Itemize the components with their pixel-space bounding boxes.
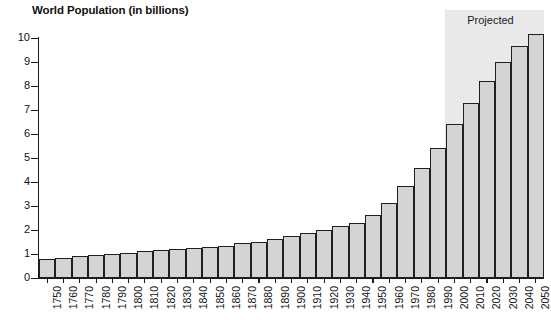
x-axis-label-1900: 1900 xyxy=(296,286,307,309)
bar-1990 xyxy=(430,148,446,278)
x-axis-label-1800: 1800 xyxy=(133,286,144,309)
x-axis-tick-1960 xyxy=(389,278,390,283)
x-axis-tick-2000 xyxy=(454,278,455,283)
bar-1830 xyxy=(169,249,185,278)
x-axis-label-1750: 1750 xyxy=(52,286,63,309)
bar-2030 xyxy=(495,62,511,278)
x-axis-label-1830: 1830 xyxy=(182,286,193,309)
x-axis-tick-1970 xyxy=(405,278,406,283)
bar-2020 xyxy=(479,81,495,278)
x-axis-tick-1950 xyxy=(372,278,373,283)
x-axis-tick-1810 xyxy=(144,278,145,283)
bar-1850 xyxy=(202,247,218,278)
x-axis-label-2010: 2010 xyxy=(475,286,486,309)
x-axis-label-1780: 1780 xyxy=(101,286,112,309)
bar-1920 xyxy=(316,230,332,278)
x-axis-tick-1900 xyxy=(291,278,292,283)
bar-2010 xyxy=(463,103,479,278)
bar-1940 xyxy=(349,223,365,278)
bar-1880 xyxy=(251,242,267,278)
bar-1970 xyxy=(397,186,413,278)
x-axis-tick-1820 xyxy=(161,278,162,283)
x-axis-tick-1750 xyxy=(47,278,48,283)
x-axis-tick-2050 xyxy=(535,278,536,283)
x-axis-label-2000: 2000 xyxy=(459,286,470,309)
x-axis-label-1770: 1770 xyxy=(84,286,95,309)
x-axis-label-2050: 2050 xyxy=(540,286,551,309)
x-axis-tick-1760 xyxy=(63,278,64,283)
x-axis-label-2040: 2040 xyxy=(524,286,535,309)
x-axis-tick-1840 xyxy=(193,278,194,283)
x-axis-label-1980: 1980 xyxy=(426,286,437,309)
bar-1960 xyxy=(381,203,397,278)
bar-1770 xyxy=(72,256,88,278)
x-axis-label-1850: 1850 xyxy=(215,286,226,309)
x-axis-label-1880: 1880 xyxy=(263,286,274,309)
x-axis-label-1890: 1890 xyxy=(280,286,291,309)
bar-1930 xyxy=(332,226,348,278)
bar-1760 xyxy=(55,258,71,278)
x-axis-label-2030: 2030 xyxy=(508,286,519,309)
bar-1800 xyxy=(120,253,136,278)
x-axis-tick-1800 xyxy=(128,278,129,283)
x-axis-label-1760: 1760 xyxy=(68,286,79,309)
x-axis-tick-1850 xyxy=(210,278,211,283)
x-axis-tick-1910 xyxy=(307,278,308,283)
bar-2050 xyxy=(528,34,544,278)
bar-2000 xyxy=(446,124,462,278)
x-axis-label-1930: 1930 xyxy=(345,286,356,309)
x-axis-tick-1940 xyxy=(356,278,357,283)
x-axis-label-1810: 1810 xyxy=(149,286,160,309)
x-axis-tick-1930 xyxy=(340,278,341,283)
x-axis-tick-2010 xyxy=(470,278,471,283)
x-axis-tick-1890 xyxy=(275,278,276,283)
x-axis-tick-1880 xyxy=(258,278,259,283)
x-axis-tick-2020 xyxy=(486,278,487,283)
x-axis-tick-1920 xyxy=(324,278,325,283)
x-axis-tick-1830 xyxy=(177,278,178,283)
x-axis-label-1860: 1860 xyxy=(231,286,242,309)
x-axis-label-1940: 1940 xyxy=(361,286,372,309)
x-axis-tick-1790 xyxy=(112,278,113,283)
bar-1910 xyxy=(300,233,316,278)
x-axis-label-1870: 1870 xyxy=(247,286,258,309)
x-axis-tick-1860 xyxy=(226,278,227,283)
bar-1750 xyxy=(39,259,55,278)
bar-1980 xyxy=(414,168,430,278)
x-axis-label-1990: 1990 xyxy=(443,286,454,309)
bar-1810 xyxy=(137,251,153,278)
x-axis-label-1790: 1790 xyxy=(117,286,128,309)
x-axis-tick-1870 xyxy=(242,278,243,283)
world-population-bar-chart: Projected World Population (in billions)… xyxy=(0,0,551,326)
x-axis-tick-1770 xyxy=(79,278,80,283)
x-axis-tick-2030 xyxy=(503,278,504,283)
x-axis-label-1910: 1910 xyxy=(312,286,323,309)
x-axis-tick-1780 xyxy=(96,278,97,283)
bar-2040 xyxy=(511,46,527,278)
bar-1780 xyxy=(88,255,104,278)
x-axis-label-1950: 1950 xyxy=(377,286,388,309)
bar-1950 xyxy=(365,215,381,278)
x-axis-tick-1990 xyxy=(438,278,439,283)
x-axis-label-1970: 1970 xyxy=(410,286,421,309)
x-axis-label-1820: 1820 xyxy=(166,286,177,309)
x-axis-label-1840: 1840 xyxy=(198,286,209,309)
bar-1790 xyxy=(104,254,120,278)
x-axis-tick-2040 xyxy=(519,278,520,283)
x-axis-label-2020: 2020 xyxy=(491,286,502,309)
bar-1900 xyxy=(283,236,299,278)
bar-1860 xyxy=(218,246,234,278)
x-axis-tick-1980 xyxy=(421,278,422,283)
x-axis-label-1920: 1920 xyxy=(329,286,340,309)
bar-1890 xyxy=(267,239,283,278)
bar-1840 xyxy=(186,248,202,278)
bar-1820 xyxy=(153,250,169,278)
x-axis-label-1960: 1960 xyxy=(394,286,405,309)
bar-1870 xyxy=(234,243,250,278)
